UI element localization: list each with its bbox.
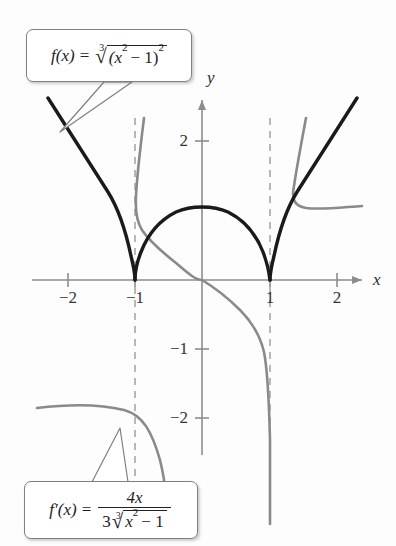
formula-function-outer-exp: 2 <box>158 41 164 53</box>
radical-sign-icon: √ <box>95 46 107 67</box>
figure-container: x y −2 −1 1 2 2 −1 −2 f(x) = 3 √ (x2− 1)… <box>0 0 396 546</box>
formula-derivative: f′(x) = 4x 33√x2− 1 <box>49 489 172 532</box>
formula-function-lhs: f(x) <box>51 47 75 64</box>
formula-function-equals: = <box>80 47 90 64</box>
x-tick-label-neg1: −1 <box>117 288 153 308</box>
formula-derivative-denominator: 33√x2− 1 <box>98 507 170 531</box>
formula-derivative-radicand-exp: 2 <box>133 506 139 518</box>
formula-derivative-equals: = <box>82 501 92 518</box>
formula-function-radicand-exp: 2 <box>122 41 128 53</box>
formula-function-radicand-base: (x <box>109 48 122 67</box>
y-tick-label-neg1: −1 <box>152 339 188 359</box>
callout-tail-function <box>60 82 132 132</box>
x-tick-label-neg2: −2 <box>50 288 86 308</box>
formula-derivative-fraction: 4x 33√x2− 1 <box>98 489 170 532</box>
callout-tail-derivative <box>92 428 128 482</box>
y-tick-label-neg2: −2 <box>152 408 188 428</box>
formula-derivative-lhs: f′(x) <box>49 501 76 518</box>
formula-derivative-radicand-base: x <box>125 512 133 531</box>
x-tick-label-1: 1 <box>252 288 288 308</box>
formula-derivative-den-coef: 3 <box>102 512 111 531</box>
formula-function-radicand: (x2− 1)2 <box>107 45 167 66</box>
formula-function: f(x) = 3 √ (x2− 1)2 <box>51 45 167 66</box>
y-tick-label-2: 2 <box>158 131 188 151</box>
x-axis-label: x <box>373 270 381 290</box>
formula-derivative-radicand-tail: − 1 <box>141 512 163 531</box>
callout-function: f(x) = 3 √ (x2− 1)2 <box>26 29 192 82</box>
y-axis-label: y <box>207 68 215 88</box>
formula-derivative-numerator: 4x <box>120 489 148 508</box>
radical-sign-denominator-icon: √ <box>112 509 124 533</box>
formula-function-radicand-mid: − 1) <box>130 48 158 67</box>
x-tick-label-2: 2 <box>319 288 355 308</box>
derivative-curve <box>37 118 362 524</box>
callout-derivative: f′(x) = 4x 33√x2− 1 <box>24 481 198 539</box>
formula-derivative-radicand: x2− 1 <box>123 510 166 531</box>
